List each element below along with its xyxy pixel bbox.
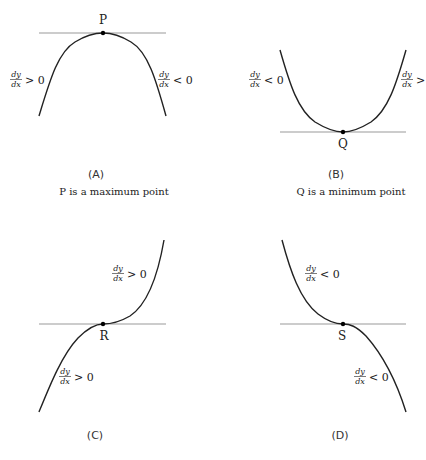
svg-text:dy: dy xyxy=(60,367,70,376)
svg-text:dx: dx xyxy=(113,274,123,283)
curve-b xyxy=(280,50,406,132)
svg-text:> 0: > 0 xyxy=(74,371,94,384)
gradient-label-a-left: dy dx > 0 xyxy=(10,70,45,89)
panel-d: S dy dx < 0 dy dx < 0 (D) xyxy=(280,240,406,442)
svg-text:dy: dy xyxy=(11,70,21,79)
point-p xyxy=(101,31,105,35)
svg-text:< 0: < 0 xyxy=(320,268,340,281)
svg-text:< 0: < 0 xyxy=(173,74,193,87)
gradient-label-a-right: dy dx < 0 xyxy=(158,70,193,89)
svg-text:< 0: < 0 xyxy=(264,74,284,87)
curve-c xyxy=(39,240,164,412)
svg-text:dy: dy xyxy=(402,70,412,79)
svg-text:dy: dy xyxy=(306,264,316,273)
point-r xyxy=(101,322,105,326)
svg-text:dy: dy xyxy=(113,264,123,273)
caption-b: Q is a minimum point xyxy=(296,186,405,197)
stationary-points-diagram: P dy dx > 0 dy dx < 0 (A) P is a maximum… xyxy=(0,0,426,460)
panel-c: R dy dx > 0 dy dx > 0 (C) xyxy=(39,240,166,442)
svg-text:dx: dx xyxy=(159,80,169,89)
svg-text:dx: dx xyxy=(11,80,21,89)
point-label-p: P xyxy=(99,13,107,27)
svg-text:> 0: > 0 xyxy=(127,268,147,281)
gradient-label-b-right: dy dx > xyxy=(401,70,425,89)
curve-d xyxy=(282,240,406,412)
gradient-label-d-upper: dy dx < 0 xyxy=(305,264,340,283)
svg-text:< 0: < 0 xyxy=(369,371,389,384)
svg-text:dy: dy xyxy=(159,70,169,79)
panel-a: P dy dx > 0 dy dx < 0 (A) P is a maximum… xyxy=(10,13,193,197)
gradient-label-d-lower: dy dx < 0 xyxy=(354,367,389,386)
point-label-s: S xyxy=(338,329,346,343)
panel-label-d: (D) xyxy=(331,429,348,442)
point-label-r: R xyxy=(99,329,109,343)
svg-text:dx: dx xyxy=(355,377,365,386)
gradient-label-b-left: dy dx < 0 xyxy=(249,70,284,89)
svg-text:dx: dx xyxy=(250,80,260,89)
panel-label-b: (B) xyxy=(328,168,344,181)
panel-b: Q dy dx < 0 dy dx > (B) Q is a minimum p… xyxy=(249,50,425,197)
point-q xyxy=(341,130,345,134)
point-s xyxy=(341,322,345,326)
gradient-label-c-lower: dy dx > 0 xyxy=(59,367,94,386)
panel-label-c: (C) xyxy=(87,429,103,442)
svg-text:dy: dy xyxy=(250,70,260,79)
gradient-label-c-upper: dy dx > 0 xyxy=(112,264,147,283)
panel-label-a: (A) xyxy=(88,168,104,181)
curve-a xyxy=(39,33,166,116)
caption-a: P is a maximum point xyxy=(59,186,169,197)
svg-text:> 0: > 0 xyxy=(25,74,45,87)
point-label-q: Q xyxy=(338,137,348,151)
svg-text:dy: dy xyxy=(355,367,365,376)
svg-text:>: > xyxy=(416,74,425,87)
svg-text:dx: dx xyxy=(402,80,412,89)
svg-text:dx: dx xyxy=(60,377,70,386)
svg-text:dx: dx xyxy=(306,274,316,283)
